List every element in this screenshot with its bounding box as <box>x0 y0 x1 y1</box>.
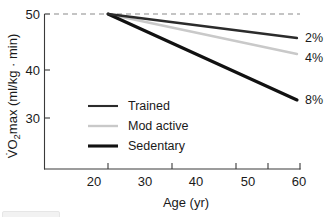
x-tick-label-50: 50 <box>241 174 255 189</box>
svg-text:V̇O2max (ml/kg · min): V̇O2max (ml/kg · min) <box>5 34 22 158</box>
x-axis-title: Age (yr) <box>163 195 209 210</box>
y-axis-title-vdot: V̇ <box>5 149 20 158</box>
x-tick-label-20: 20 <box>87 174 101 189</box>
legend-item-trained[interactable]: Trained <box>88 99 170 113</box>
y-axis-title: V̇O2max (ml/kg · min) <box>5 34 22 158</box>
legend-item-mod-active[interactable]: Mod active <box>88 119 188 133</box>
annotation-sedentary-decline: 8% <box>305 93 323 107</box>
figure-caption-chip <box>2 211 60 217</box>
legend-item-sedentary[interactable]: Sedentary <box>88 139 186 153</box>
x-axis-ticks <box>108 163 268 169</box>
y-axis-title-o: O <box>5 139 20 149</box>
figure-caption-strip <box>0 210 330 217</box>
chart-legend: Trained Mod active Sedentary <box>88 99 188 153</box>
y-axis-ticks <box>45 14 51 118</box>
y-tick-label-30: 30 <box>26 111 40 126</box>
legend-label-sedentary: Sedentary <box>128 139 186 153</box>
y-tick-label-50: 50 <box>26 7 40 22</box>
x-tick-label-40: 40 <box>189 174 203 189</box>
annotation-trained-decline: 2% <box>305 31 323 45</box>
legend-label-trained: Trained <box>128 99 170 113</box>
figure-container: 50 40 30 20 30 40 50 60 Age (yr) V̇O2max… <box>0 0 330 217</box>
annotation-mod-active-decline: 4% <box>305 51 323 65</box>
x-tick-label-30: 30 <box>138 174 152 189</box>
x-tick-label-60: 60 <box>292 174 306 189</box>
legend-label-mod-active: Mod active <box>128 119 188 133</box>
vo2max-decline-line-chart: 50 40 30 20 30 40 50 60 Age (yr) V̇O2max… <box>0 0 330 217</box>
y-axis-title-rest: max (ml/kg · min) <box>5 34 20 134</box>
y-tick-label-40: 40 <box>26 63 40 78</box>
